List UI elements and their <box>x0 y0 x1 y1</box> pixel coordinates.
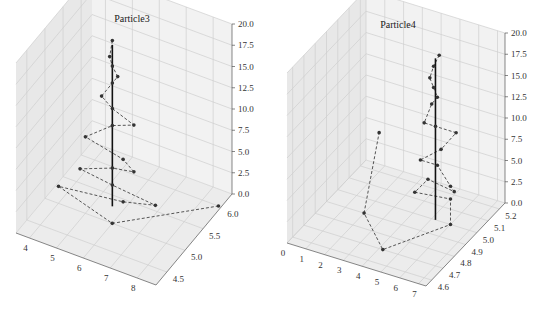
data-point <box>100 94 104 98</box>
y-tick-label: 4.5 <box>173 274 185 284</box>
z-tick-label: 5.0 <box>511 156 523 166</box>
data-point <box>439 148 443 152</box>
data-point <box>111 81 115 85</box>
z-tick-label: 0.0 <box>511 198 523 208</box>
data-point <box>108 55 112 59</box>
x-tick-label: 2 <box>318 260 323 270</box>
z-tick-label: 15.0 <box>238 62 254 72</box>
x-tick-label: 6 <box>393 283 398 293</box>
data-point <box>111 107 115 111</box>
data-point <box>432 86 436 90</box>
data-point <box>430 102 434 106</box>
particle4-subplot: 012345674.64.74.84.95.05.15.20.02.55.07.… <box>281 0 528 299</box>
data-point <box>111 166 115 170</box>
x-tick-label: 3 <box>337 265 342 275</box>
x-tick-label: 6 <box>77 263 82 273</box>
data-point <box>121 158 125 162</box>
z-tick-label: 7.5 <box>238 125 250 135</box>
data-point <box>437 53 441 57</box>
y-tick-label: 5.1 <box>494 223 505 233</box>
x-tick-label: 7 <box>412 289 417 299</box>
data-point <box>452 190 456 194</box>
data-point <box>78 167 82 171</box>
z-tick-label: 10.0 <box>511 113 527 123</box>
y-tick-label: 5.0 <box>191 252 203 262</box>
data-point <box>428 76 432 80</box>
data-point <box>413 190 417 194</box>
data-point <box>377 131 381 135</box>
data-point <box>111 183 115 187</box>
data-point <box>154 204 158 208</box>
data-point <box>381 248 385 252</box>
data-point <box>449 223 453 227</box>
data-point <box>121 200 125 204</box>
data-point <box>432 64 436 68</box>
data-point <box>449 184 453 188</box>
z-tick-label: 10.0 <box>238 104 254 114</box>
data-point <box>454 131 458 135</box>
data-point <box>362 211 366 215</box>
y-tick-label: 4.8 <box>460 258 472 268</box>
data-point <box>426 177 430 181</box>
data-point <box>110 222 114 226</box>
x-tick-label: 4 <box>23 243 28 253</box>
y-tick-label: 5.5 <box>209 231 221 241</box>
y-tick-label: 5.2 <box>505 211 516 221</box>
z-tick-label: 12.5 <box>511 92 527 102</box>
z-tick-label: 0.0 <box>238 189 250 199</box>
x-tick-label: 1 <box>300 254 305 264</box>
x-tick-label: 5 <box>50 253 55 263</box>
data-point <box>132 170 136 174</box>
z-tick-label: 15.0 <box>511 71 527 81</box>
z-tick-label: 20.0 <box>511 28 527 38</box>
z-tick-label: 2.5 <box>238 168 250 178</box>
x-tick-label: 4 <box>356 271 361 281</box>
data-point <box>419 158 423 162</box>
data-point <box>111 39 115 43</box>
z-tick-label: 5.0 <box>238 147 250 157</box>
y-tick-label: 4.9 <box>472 247 484 257</box>
x-tick-label: 0 <box>281 248 286 258</box>
data-point <box>116 75 120 79</box>
data-point <box>434 125 438 129</box>
data-point <box>57 185 61 189</box>
subplot-title: Particle3 <box>114 13 150 24</box>
x-tick-label: 8 <box>131 283 136 293</box>
x-tick-label: 5 <box>375 277 380 287</box>
data-point <box>217 204 221 208</box>
data-point <box>436 95 440 99</box>
data-point <box>111 124 115 128</box>
particle3-subplot: 456784.55.05.56.00.02.55.07.510.012.515.… <box>16 0 254 293</box>
subplot-title: Particle4 <box>380 19 416 30</box>
z-tick-label: 12.5 <box>238 83 254 93</box>
z-tick-label: 17.5 <box>238 40 254 50</box>
z-tick-label: 20.0 <box>238 19 254 29</box>
z-tick-label: 17.5 <box>511 49 527 59</box>
figure: 456784.55.05.56.00.02.55.07.510.012.515.… <box>0 0 547 310</box>
data-point <box>111 64 115 68</box>
data-point <box>132 123 136 127</box>
y-tick-label: 4.7 <box>449 270 461 280</box>
y-tick-label: 5.0 <box>483 235 495 245</box>
data-point <box>436 163 440 167</box>
data-point <box>422 121 426 125</box>
data-point <box>84 135 88 139</box>
x-tick-label: 7 <box>104 273 109 283</box>
y-tick-label: 4.6 <box>438 282 450 292</box>
z-tick-label: 2.5 <box>511 177 523 187</box>
data-point <box>449 197 453 201</box>
y-tick-label: 6.0 <box>227 209 239 219</box>
z-tick-label: 7.5 <box>511 134 523 144</box>
